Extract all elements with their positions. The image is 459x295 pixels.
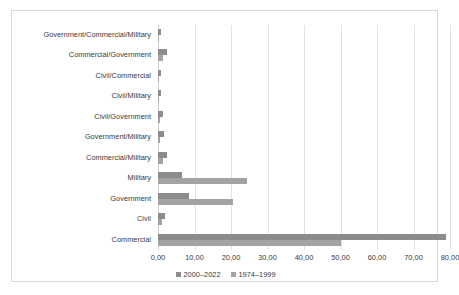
bar-group — [158, 66, 450, 86]
x-axis-tick-label: 60,00 — [368, 253, 387, 262]
bar-group — [158, 86, 450, 106]
chart-container: Government/Commercial/MilitaryCommercial… — [11, 10, 438, 282]
bar-1[interactable] — [158, 117, 160, 123]
legend-label: 2000–2022 — [184, 270, 221, 279]
y-axis-label: Government — [12, 189, 154, 209]
x-axis-tick-label: 40,00 — [295, 253, 314, 262]
x-axis-tick-label: 50,00 — [331, 253, 350, 262]
y-axis-category-labels: Government/Commercial/MilitaryCommercial… — [12, 25, 154, 250]
y-axis-label: Commercial/Military — [12, 148, 154, 168]
bar-group — [158, 107, 450, 127]
bar-1[interactable] — [158, 240, 341, 246]
bar-1[interactable] — [158, 219, 162, 225]
bar-1[interactable] — [158, 178, 247, 184]
x-axis-tick-label: 20,00 — [222, 253, 241, 262]
y-axis-label: Civil/Military — [12, 86, 154, 106]
bar-1[interactable] — [158, 96, 159, 102]
legend-item[interactable]: 1974–1999 — [231, 270, 276, 279]
y-axis-label: Civil — [12, 209, 154, 229]
x-axis-tick-label: 30,00 — [258, 253, 277, 262]
plot-area — [158, 25, 450, 250]
y-axis-label: Civil/Government — [12, 107, 154, 127]
bar-group — [158, 168, 450, 188]
bar-group — [158, 209, 450, 229]
x-axis-tick-label: 10,00 — [185, 253, 204, 262]
x-axis-tick-label: 80,00 — [441, 253, 459, 262]
y-axis-label: Military — [12, 168, 154, 188]
chart-legend: 2000–20221974–1999 — [12, 270, 439, 279]
gridline-8000 — [450, 25, 451, 250]
legend-label: 1974–1999 — [239, 270, 276, 279]
bar-group — [158, 127, 450, 147]
y-axis-label: Civil/Commercial — [12, 66, 154, 86]
y-axis-label: Commercial/Government — [12, 45, 154, 65]
x-axis-tick-label: 0,00 — [151, 253, 165, 262]
bar-group — [158, 25, 450, 45]
bar-1[interactable] — [158, 158, 163, 164]
x-axis-tick-label: 70,00 — [404, 253, 423, 262]
bar-group — [158, 230, 450, 250]
bar-1[interactable] — [158, 76, 159, 82]
y-axis-label: Commercial — [12, 230, 154, 250]
bar-group — [158, 45, 450, 65]
y-axis-label: Government/Military — [12, 127, 154, 147]
bar-1[interactable] — [158, 55, 163, 61]
legend-item[interactable]: 2000–2022 — [176, 270, 221, 279]
x-axis-tick-labels: 0,0010,0020,0030,0040,0050,0060,0070,008… — [158, 253, 450, 267]
bar-1[interactable] — [158, 137, 160, 143]
legend-swatch-icon — [176, 272, 181, 277]
legend-swatch-icon — [231, 272, 236, 277]
bar-group — [158, 189, 450, 209]
bar-1[interactable] — [158, 199, 233, 205]
y-axis-label: Government/Commercial/Military — [12, 25, 154, 45]
bar-1[interactable] — [158, 35, 159, 41]
bar-group — [158, 148, 450, 168]
